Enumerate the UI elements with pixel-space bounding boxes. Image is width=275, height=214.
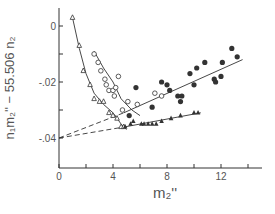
chart: 048120-.02-.04 m₂'' n₁m₂'' − 55.506 n₂ [0, 0, 275, 214]
filled-triangle-marker [154, 121, 159, 126]
open-triangle-marker [77, 43, 82, 48]
filled-circle-marker [127, 113, 132, 118]
open-circle-marker [113, 85, 118, 90]
filled-circle-marker [159, 79, 164, 84]
filled-triangle-marker [196, 110, 201, 115]
filled-triangle-fit [125, 113, 201, 127]
open-triangle-marker [88, 82, 93, 87]
open-triangle-curve [73, 18, 127, 130]
open-triangle-marker [92, 96, 97, 101]
data-points [70, 15, 240, 129]
filled-triangle-marker [178, 113, 183, 118]
open-circle-marker [159, 94, 164, 99]
filled-circle-marker [202, 60, 207, 65]
filled-circle-marker [218, 74, 223, 79]
filled-circle-marker [179, 93, 184, 98]
y-axis-label: n₁m₂'' − 55.506 n₂ [2, 37, 17, 140]
open-circle-marker [135, 102, 140, 107]
filled-circle-marker [191, 82, 196, 87]
y-tick-label: 0 [50, 21, 56, 32]
open-circle-marker [99, 69, 104, 74]
scatter-plot: 048120-.02-.04 m₂'' n₁m₂'' − 55.506 n₂ [0, 0, 275, 214]
filled-circle-marker [167, 88, 172, 93]
filled-triangle-extrapolation [59, 127, 125, 138]
filled-triangle-marker [192, 110, 197, 115]
x-tick-label: 0 [56, 171, 62, 182]
filled-circle-marker [235, 54, 240, 59]
x-tick-label: 8 [164, 171, 170, 182]
x-tick-label: 12 [215, 171, 227, 182]
open-circle-marker [116, 74, 121, 79]
x-axis-label: m₂'' [153, 184, 177, 201]
filled-circle-marker [229, 46, 234, 51]
filled-triangle-marker [131, 118, 136, 123]
open-circle-marker [92, 52, 97, 57]
open-circle-marker [104, 83, 109, 88]
filled-circle-marker [133, 85, 138, 90]
filled-circle-marker [178, 99, 183, 104]
open-circle-marker [96, 60, 101, 65]
filled-circle-marker [213, 79, 218, 84]
open-circle-marker [112, 94, 117, 99]
y-tick-label: -.02 [39, 77, 57, 88]
open-circle-marker [120, 108, 125, 113]
open-circle-marker [103, 77, 108, 82]
filled-circle-marker [194, 65, 199, 70]
x-tick-label: 4 [110, 171, 116, 182]
open-circle-marker [126, 99, 131, 104]
filled-circle-fit [124, 60, 243, 113]
y-tick-label: -.04 [39, 133, 57, 144]
open-circle-curve [94, 51, 140, 115]
filled-circle-marker [164, 82, 169, 87]
open-triangle-marker [101, 99, 106, 104]
filled-circle-marker [187, 71, 192, 76]
filled-circle-marker [150, 105, 155, 110]
filled-circle-marker [220, 60, 225, 65]
axes: 048120-.02-.04 [39, 8, 262, 182]
open-circle-marker [153, 91, 158, 96]
open-triangle-marker [70, 15, 75, 20]
